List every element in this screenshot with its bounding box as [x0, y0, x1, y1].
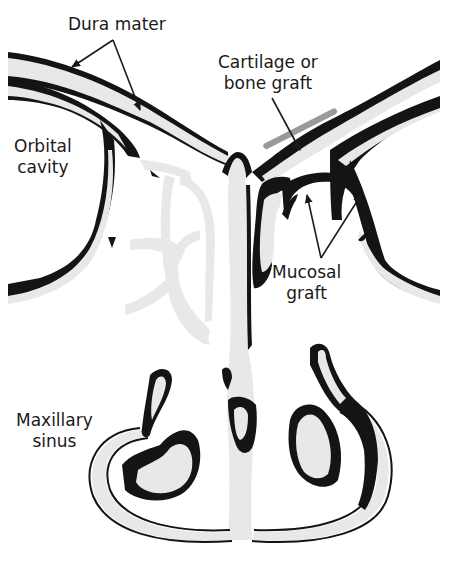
dura-arrow-left	[72, 40, 113, 67]
label-maxillary-sinus: Maxillary sinus	[16, 410, 93, 452]
label-mucosal-graft: Mucosal graft	[272, 262, 341, 304]
label-orbital-line1: Orbital	[14, 136, 72, 157]
label-cartilage-line1: Cartilage or	[218, 52, 318, 73]
label-cartilage-graft: Cartilage or bone graft	[218, 52, 318, 94]
label-maxillary-line1: Maxillary	[16, 410, 93, 431]
label-dura-mater: Dura mater	[68, 14, 166, 35]
label-mucosal-line2: graft	[272, 283, 341, 304]
label-orbital-line2: cavity	[14, 157, 72, 178]
mucosal-graft-arrow-left	[307, 195, 321, 258]
label-maxillary-line2: sinus	[16, 431, 93, 452]
nasal-septum	[222, 185, 257, 540]
label-mucosal-line1: Mucosal	[272, 262, 341, 283]
label-cartilage-line2: bone graft	[218, 73, 318, 94]
label-orbital-cavity: Orbital cavity	[14, 136, 72, 178]
left-ethmoid-cells	[108, 160, 215, 345]
label-dura-mater-text: Dura mater	[68, 14, 166, 35]
right-orbital-wall	[348, 160, 440, 304]
